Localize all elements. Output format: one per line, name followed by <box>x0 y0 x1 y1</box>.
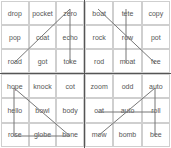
word-cell[interactable]: fee <box>142 49 170 73</box>
word-cell[interactable]: moat <box>113 49 141 73</box>
word-cell[interactable]: got <box>29 49 57 73</box>
word-cell[interactable]: odd <box>113 74 141 98</box>
word-cell[interactable]: knock <box>29 74 57 98</box>
grid-bottom-right: zoom odd auto oat auto roll mow bomb bee <box>85 74 170 147</box>
word-cell[interactable]: pop <box>1 25 29 49</box>
word-cell[interactable]: zero <box>56 1 84 25</box>
word-cell[interactable]: bowl <box>29 98 57 122</box>
word-cell[interactable]: zoom <box>85 74 113 98</box>
word-cell[interactable]: oat <box>85 98 113 122</box>
word-cell[interactable]: row <box>113 25 141 49</box>
word-cell[interactable]: drop <box>1 1 29 25</box>
word-cell[interactable]: copy <box>142 1 170 25</box>
word-cell[interactable]: roll <box>142 98 170 122</box>
word-cell[interactable]: hello <box>1 98 29 122</box>
word-cell[interactable]: rose <box>1 123 29 147</box>
grid-top-right: boat tete copy rock row pot rod moat fee <box>85 1 170 73</box>
word-cell[interactable]: bone <box>56 123 84 147</box>
horizontal-divider <box>0 73 171 74</box>
word-cell[interactable]: bee <box>142 123 170 147</box>
word-cell[interactable]: pocket <box>29 1 57 25</box>
word-cell[interactable]: hope <box>1 74 29 98</box>
word-cell[interactable]: toke <box>56 49 84 73</box>
word-cell[interactable]: auto <box>113 98 141 122</box>
word-grid-board: drop pocket zero pop coat echo road got … <box>0 0 171 148</box>
word-cell[interactable]: mow <box>85 123 113 147</box>
word-cell[interactable]: bomb <box>113 123 141 147</box>
word-cell[interactable]: tete <box>113 1 141 25</box>
word-cell[interactable]: pot <box>142 25 170 49</box>
word-cell[interactable]: road <box>1 49 29 73</box>
word-cell[interactable]: body <box>56 98 84 122</box>
vertical-divider <box>84 0 85 148</box>
word-cell[interactable]: echo <box>56 25 84 49</box>
word-cell[interactable]: auto <box>142 74 170 98</box>
word-cell[interactable]: rock <box>85 25 113 49</box>
word-cell[interactable]: cot <box>56 74 84 98</box>
word-cell[interactable]: globe <box>29 123 57 147</box>
grid-top-left: drop pocket zero pop coat echo road got … <box>1 1 84 73</box>
word-cell[interactable]: boat <box>85 1 113 25</box>
grid-bottom-left: hope knock cot hello bowl body rose glob… <box>1 74 84 147</box>
word-cell[interactable]: rod <box>85 49 113 73</box>
word-cell[interactable]: coat <box>29 25 57 49</box>
